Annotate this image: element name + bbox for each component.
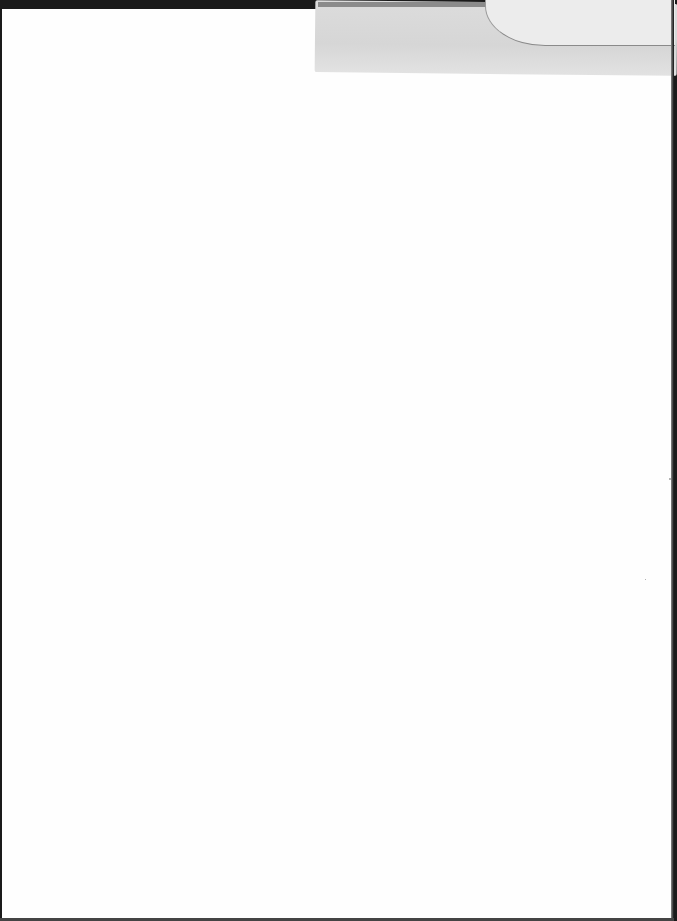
- tape-shadow: [318, 2, 488, 7]
- tape-fold: [485, 0, 675, 46]
- dust-speck: [645, 579, 646, 580]
- dust-speck: [669, 478, 671, 480]
- blank-page: [2, 9, 671, 919]
- scan-edge-right: [671, 0, 674, 921]
